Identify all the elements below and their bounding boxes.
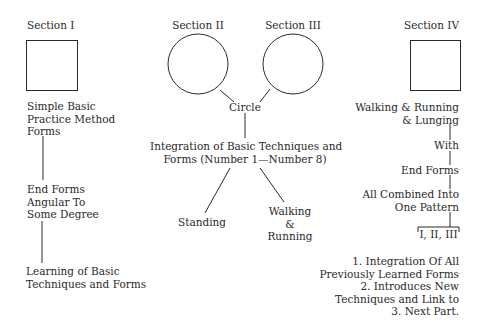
section4-square: [411, 41, 461, 91]
text-line: Walking & Running: [355, 101, 459, 114]
section2-title: Section II: [168, 19, 228, 32]
text-line: 1. Integration Of All: [319, 255, 459, 268]
text-line: Angular To: [27, 196, 99, 209]
text-line: Techniques and Forms: [26, 278, 146, 291]
text-line: All Combined Into: [362, 188, 459, 201]
text-line: Simple Basic: [27, 100, 115, 113]
text-line: Integration of Basic Techniques and: [150, 140, 340, 153]
section1-step2: End Forms Angular To Some Degree: [27, 183, 99, 221]
text-line: Forms: [27, 125, 115, 138]
section4-label: Walking & Running & Lunging: [355, 101, 459, 126]
section3-circle: [263, 34, 323, 94]
branch-walking-running: Walking & Running: [265, 205, 315, 243]
section4-end-forms: End Forms: [401, 164, 459, 177]
section2-circle: [168, 34, 228, 94]
circle-label: Circle: [220, 101, 270, 114]
section4-combined: All Combined Into One Pattern: [362, 188, 459, 213]
text-line: End Forms: [27, 183, 99, 196]
text-line: Running: [265, 230, 315, 243]
text-line: Walking: [265, 205, 315, 218]
text-line: &: [265, 218, 315, 231]
text-line: & Lunging: [355, 114, 459, 127]
section1-label: Simple Basic Practice Method Forms: [27, 100, 115, 138]
section4-bracket-label: I, II, III: [418, 228, 459, 241]
section4-notes: 1. Integration Of All Previously Learned…: [319, 255, 459, 318]
text-line: One Pattern: [362, 201, 459, 214]
text-line: 3. Next Part.: [319, 305, 459, 318]
section4-title: Section IV: [404, 19, 459, 32]
section1-step3: Learning of Basic Techniques and Forms: [26, 265, 146, 290]
integration-label: Integration of Basic Techniques and Form…: [150, 140, 340, 165]
section1-square: [27, 41, 78, 91]
text-line: Practice Method: [27, 113, 115, 126]
branch-line-right: [260, 168, 284, 202]
branch-standing: Standing: [178, 216, 226, 229]
text-line: Learning of Basic: [26, 265, 146, 278]
section3-title: Section III: [260, 19, 326, 32]
section1-title: Section I: [27, 19, 74, 32]
text-line: Techniques and Link to: [319, 293, 459, 306]
text-line: Previously Learned Forms: [319, 268, 459, 281]
text-line: 2. Introduces New: [319, 280, 459, 293]
text-line: Forms (Number 1—Number 8): [150, 153, 340, 166]
branch-line-left: [205, 168, 230, 213]
text-line: Some Degree: [27, 208, 99, 221]
section4-with: With: [434, 139, 459, 152]
